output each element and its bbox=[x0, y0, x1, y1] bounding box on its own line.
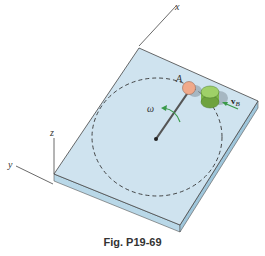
plate-top bbox=[54, 48, 258, 225]
diagram-figure: x z y A vB ω bbox=[0, 0, 265, 256]
x-axis-label: x bbox=[174, 1, 180, 12]
y-axis bbox=[16, 166, 53, 184]
omega-label: ω bbox=[147, 103, 154, 114]
y-axis-label: y bbox=[7, 159, 13, 170]
x-axis bbox=[139, 6, 176, 46]
pivot-point bbox=[154, 137, 158, 141]
z-axis-label: z bbox=[49, 127, 54, 138]
point-a-label: A bbox=[175, 73, 183, 84]
ball-a bbox=[183, 82, 196, 95]
cylinder-b-top bbox=[201, 86, 219, 98]
figure-caption: Fig. P19-69 bbox=[0, 236, 265, 248]
